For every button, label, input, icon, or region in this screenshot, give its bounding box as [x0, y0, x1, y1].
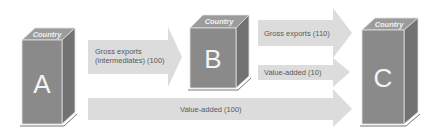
- country-letter: B: [204, 44, 221, 74]
- arrow-b-to-c-value-added: Value-added (10): [258, 58, 350, 87]
- country-label: Country: [375, 20, 405, 29]
- arrow-b-to-c-gross-exports: Gross exports (110): [258, 8, 352, 58]
- country-label: Country: [205, 17, 235, 26]
- trade-flow-diagram: Gross exports (intermediates) (100) Gros…: [0, 0, 439, 135]
- flow-label: Gross exports (110): [264, 29, 330, 38]
- country-box-c: Country C: [360, 18, 420, 126]
- country-letter: A: [33, 69, 51, 99]
- country-label: Country: [33, 30, 63, 39]
- flow-label-line2: (intermediates) (100): [95, 56, 165, 65]
- country-box-b: Country B: [188, 15, 251, 90]
- flow-label: Value-added (10): [264, 68, 322, 77]
- country-box-a: Country A: [20, 28, 77, 126]
- arrow-a-to-b-gross-exports: Gross exports (intermediates) (100): [88, 27, 182, 87]
- country-letter: C: [374, 63, 393, 93]
- flow-label: Value-added (100): [180, 105, 242, 114]
- flow-label-line1: Gross exports: [95, 47, 142, 56]
- arrow-a-to-c-value-added: Value-added (100): [88, 89, 352, 127]
